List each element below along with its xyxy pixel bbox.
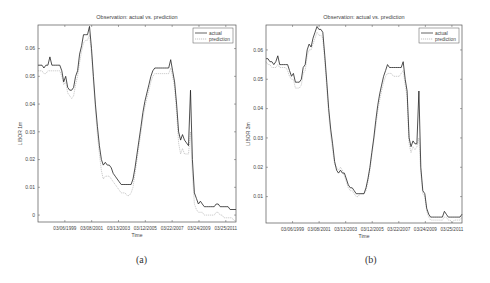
x-tick-label: 03/22/2007: [161, 226, 184, 231]
chart-title: Observation: actual vs. prediction: [323, 14, 404, 20]
caption-a: (a): [136, 254, 147, 265]
y-axis-label: LIBOR 1m: [17, 122, 23, 145]
x-axis-label: Time: [359, 233, 370, 239]
chart-panel-b: Observation: actual vs. prediction0.010.…: [245, 0, 490, 283]
x-tick-label: 03/06/1999: [53, 226, 76, 231]
x-tick-label: 03/22/2007: [387, 227, 410, 232]
plot-area: [266, 27, 462, 224]
legend: actualprediction: [193, 28, 233, 43]
x-tick-label: 03/12/2005: [134, 226, 157, 231]
y-tick-label: 0.05: [25, 73, 35, 79]
caption-b: (b): [365, 254, 377, 265]
x-tick-label: 03/08/2001: [308, 227, 331, 232]
x-tick-label: 03/08/2001: [80, 226, 103, 231]
x-axis-label: Time: [132, 232, 143, 238]
legend-label-actual: actual: [209, 31, 222, 36]
series-actual-line: [266, 27, 462, 218]
x-tick-label: 03/13/2003: [334, 227, 357, 232]
x-tick-label: 03/24/2009: [414, 227, 437, 232]
y-axis-label: LIBOR 3m: [245, 122, 251, 145]
y-tick-label: 0: [32, 212, 35, 218]
legend-label-prediction: prediction: [435, 37, 456, 42]
chart-title: Observation: actual vs. prediction: [96, 14, 177, 20]
y-tick-label: 0.05: [253, 76, 263, 82]
y-tick-label: 0.06: [253, 47, 263, 53]
series-actual-line: [38, 26, 236, 209]
series-prediction-line: [38, 35, 236, 221]
y-tick-label: 0.03: [25, 129, 35, 135]
line-chart-libor-3m: Observation: actual vs. prediction0.010.…: [245, 0, 490, 250]
y-tick-label: 0.04: [253, 105, 263, 111]
x-tick-label: 03/12/2005: [361, 227, 384, 232]
plot-area: [38, 26, 236, 220]
y-tick-label: 0.06: [25, 45, 35, 51]
y-tick-label: 0.01: [25, 184, 35, 190]
series-prediction-line: [266, 32, 462, 223]
x-tick-label: 03/13/2003: [107, 226, 130, 231]
x-tick-label: 03/25/2011: [441, 227, 464, 232]
legend-label-actual: actual: [435, 31, 448, 36]
x-tick-label: 03/06/1999: [281, 227, 304, 232]
x-tick-label: 03/24/2009: [187, 226, 210, 231]
axes-frame: [38, 25, 236, 222]
chart-panel-a: Observation: actual vs. prediction00.010…: [0, 0, 245, 283]
x-tick-label: 03/25/2011: [214, 226, 237, 231]
legend: actualprediction: [419, 28, 459, 43]
y-tick-label: 0.02: [25, 156, 35, 162]
y-tick-label: 0.02: [253, 164, 263, 170]
y-tick-label: 0.04: [25, 101, 35, 107]
y-tick-label: 0.03: [253, 135, 263, 141]
y-tick-label: 0.01: [253, 193, 263, 199]
legend-label-prediction: prediction: [209, 37, 230, 42]
line-chart-libor-1m: Observation: actual vs. prediction00.010…: [0, 0, 245, 250]
